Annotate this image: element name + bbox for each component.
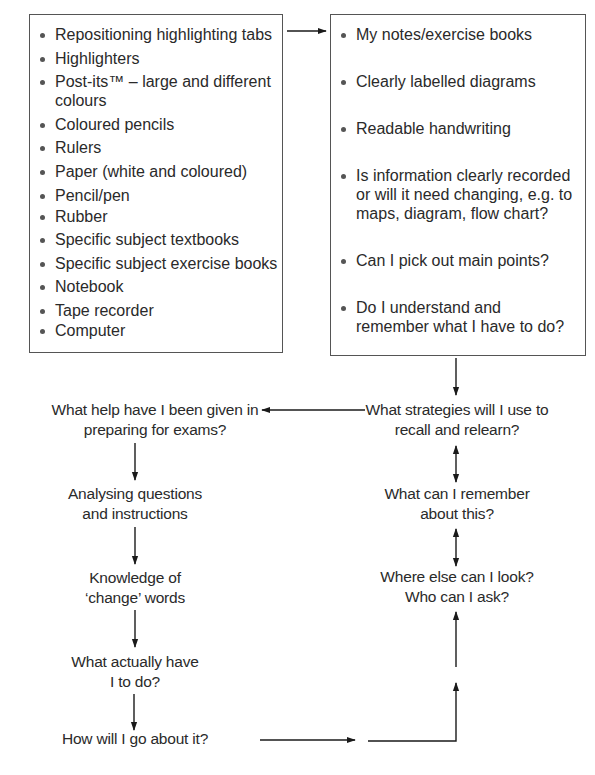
list-item: Notebook (30, 277, 282, 296)
node-what-to-do: What actually have I to do? (70, 652, 200, 692)
list-item: Can I pick out main points? (331, 251, 585, 270)
resources-box: Repositioning highlighting tabs Highligh… (29, 14, 283, 353)
node-analysing-questions: Analysing questions and instructions (65, 484, 205, 524)
list-item: Coloured pencils (30, 115, 282, 134)
node-where-else: Where else can I look? Who can I ask? (367, 567, 547, 607)
list-item: Is information clearly recorded or will … (331, 166, 585, 223)
node-how-go-about: How will I go about it? (40, 729, 230, 749)
list-item: Do I understand and remember what I have… (331, 298, 585, 336)
list-item: Specific subject textbooks (30, 230, 282, 249)
list-item: Highlighters (30, 49, 282, 68)
list-item: My notes/exercise books (331, 25, 585, 44)
list-item: Repositioning highlighting tabs (30, 25, 282, 44)
arrow-up-to-gap (368, 683, 456, 741)
node-what-remember: What can I remember about this? (372, 484, 542, 524)
list-item: Tape recorder (30, 301, 282, 320)
node-strategies: What strategies will I use to recall and… (362, 400, 552, 440)
list-item: Readable handwriting (331, 119, 585, 138)
list-item: Computer (30, 321, 282, 340)
node-change-words: Knowledge of ‘change’ words (60, 568, 210, 608)
checklist-list: My notes/exercise books Clearly labelled… (331, 25, 585, 336)
list-item: Clearly labelled diagrams (331, 72, 585, 91)
list-item: Specific subject exercise books (30, 254, 282, 273)
checklist-box: My notes/exercise books Clearly labelled… (330, 14, 586, 356)
list-item: Paper (white and coloured) (30, 162, 282, 181)
resources-list: Repositioning highlighting tabs Highligh… (30, 25, 282, 340)
list-item: Pencil/pen (30, 186, 282, 205)
list-item: Rubber (30, 207, 282, 226)
node-help-given: What help have I been given in preparing… (40, 400, 270, 440)
list-item: Rulers (30, 138, 282, 157)
list-item: Post-its™ – large and different colours (30, 72, 282, 110)
